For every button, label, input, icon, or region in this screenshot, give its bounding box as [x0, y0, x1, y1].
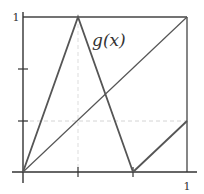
chart-canvas: 1 1 g(x): [0, 0, 204, 194]
y-tick-label-one: 1: [13, 11, 20, 24]
g-function-label: g(x): [92, 30, 126, 50]
g-ramp-line: [133, 121, 187, 172]
x-tick-label-one: 1: [184, 180, 191, 193]
